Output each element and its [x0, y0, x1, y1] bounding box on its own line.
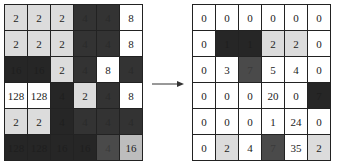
output-grid: 000000011220037540000200700012400247352: [192, 4, 331, 161]
grid-cell: 4: [74, 109, 96, 134]
grid-cell: 7: [308, 83, 330, 108]
grid-cell: 1: [216, 31, 238, 56]
grid-cell: 0: [239, 109, 261, 134]
grid-cell: 1: [262, 109, 284, 134]
grid-cell: 2: [5, 5, 27, 30]
grid-cell: 16: [28, 57, 50, 82]
grid-cell: 0: [193, 5, 215, 30]
grid-cell: 0: [216, 5, 238, 30]
grid-cell: 0: [193, 57, 215, 82]
grid-cell: 4: [97, 83, 119, 108]
grid-cell: 0: [285, 83, 307, 108]
grid-cell: 2: [5, 109, 27, 134]
grid-cell: 0: [216, 83, 238, 108]
grid-cell: 16: [51, 135, 73, 160]
grid-cell: 24: [285, 109, 307, 134]
grid-cell: 0: [193, 109, 215, 134]
grid-cell: 0: [193, 31, 215, 56]
grid-cell: 8: [120, 83, 142, 108]
grid-cell: 16: [5, 57, 27, 82]
grid-cell: 2: [51, 5, 73, 30]
grid-cell: 128: [28, 83, 50, 108]
grid-cell: 7: [262, 135, 284, 160]
grid-cell: 2: [74, 83, 96, 108]
grid-cell: 128: [5, 135, 27, 160]
grid-cell: 2: [51, 57, 73, 82]
grid-cell: 2: [51, 31, 73, 56]
grid-cell: 2: [5, 31, 27, 56]
grid-cell: 4: [97, 135, 119, 160]
grid-cell: 1: [239, 31, 261, 56]
grid-cell: 3: [216, 57, 238, 82]
grid-cell: 4: [120, 109, 142, 134]
grid-cell: 2: [28, 109, 50, 134]
grid-cell: 0: [308, 31, 330, 56]
grid-cell: 8: [120, 5, 142, 30]
grid-cell: 0: [239, 5, 261, 30]
grid-cell: 4: [51, 109, 73, 134]
grid-cell: 8: [120, 31, 142, 56]
grid-cell: 20: [262, 83, 284, 108]
grid-cell: 0: [308, 5, 330, 30]
grid-cell: 2: [262, 31, 284, 56]
grid-cell: 4: [97, 5, 119, 30]
grid-cell: 2: [285, 31, 307, 56]
grid-cell: 35: [285, 135, 307, 160]
grid-cell: 4: [97, 31, 119, 56]
grid-cell: 0: [216, 109, 238, 134]
grid-cell: 7: [239, 57, 261, 82]
grid-cell: 16: [120, 135, 142, 160]
grid-cell: 4: [239, 135, 261, 160]
grid-cell: 4: [74, 57, 96, 82]
grid-cell: 128: [28, 135, 50, 160]
grid-cell: 0: [239, 83, 261, 108]
grid-cell: 5: [262, 57, 284, 82]
grid-cell: 128: [5, 83, 27, 108]
grid-cell: 4: [97, 109, 119, 134]
grid-cell: 4: [74, 5, 96, 30]
grid-cell: 8: [97, 57, 119, 82]
grid-cell: 0: [193, 135, 215, 160]
grid-cell: 4: [51, 83, 73, 108]
grid-cell: 16: [74, 135, 96, 160]
grid-cell: 2: [308, 135, 330, 160]
grid-cell: 0: [193, 83, 215, 108]
arrow-right-icon: [152, 80, 184, 88]
grid-cell: 0: [308, 109, 330, 134]
grid-cell: 4: [285, 57, 307, 82]
input-grid: 2224482224481616248412812842482244441281…: [4, 4, 143, 161]
grid-cell: 2: [28, 5, 50, 30]
grid-cell: 4: [120, 57, 142, 82]
grid-cell: 2: [216, 135, 238, 160]
grid-cell: 0: [262, 5, 284, 30]
grid-cell: 4: [74, 31, 96, 56]
grid-cell: 0: [308, 57, 330, 82]
grid-cell: 0: [285, 5, 307, 30]
grid-cell: 2: [28, 31, 50, 56]
